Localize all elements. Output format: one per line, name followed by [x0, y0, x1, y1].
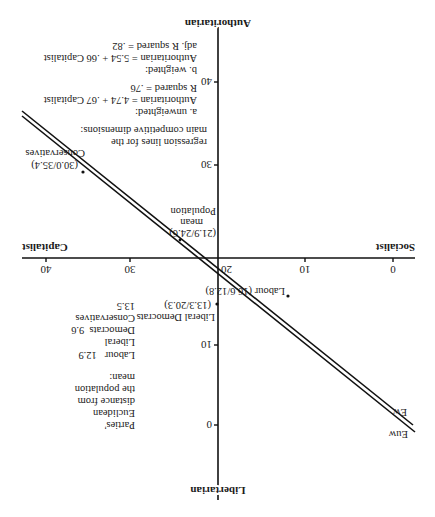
svg-text:Conservatives: Conservatives — [76, 313, 136, 324]
x-tick-10: 10 — [299, 264, 311, 276]
svg-text:Authoritarian = 5.54 + .66 Cap: Authoritarian = 5.54 + .66 Capitalist — [44, 53, 197, 64]
distance-note: Parties' Euclidean distance from the pop… — [71, 301, 135, 431]
svg-text:Democrats 9.6: Democrats 9.6 — [71, 325, 135, 336]
regression-note: regression lines for the main competitiv… — [44, 41, 207, 148]
svg-text:13.5: 13.5 — [117, 301, 135, 312]
point-label-libdem-2: (13.3/20.3) — [164, 299, 211, 311]
x-axis-right-label: Capitalist — [22, 242, 68, 254]
line-label-ew: Ew — [393, 407, 407, 418]
svg-text:b. weighted:: b. weighted: — [145, 65, 197, 76]
svg-text:main competitive dimensions:: main competitive dimensions: — [80, 125, 207, 136]
svg-text:Euclidean: Euclidean — [92, 408, 135, 419]
svg-text:Liberal: Liberal — [105, 337, 135, 348]
chart-figure: 0 10 20 30 40 0 10 30 40 Socialist Capit… — [0, 0, 435, 517]
svg-text:adj. R squared = .82: adj. R squared = .82 — [112, 41, 197, 52]
svg-text:Authoritarian = 4.74 + .67 Cap: Authoritarian = 4.74 + .67 Capitalist — [44, 95, 197, 106]
x-axis-left-label: Socialist — [376, 242, 415, 254]
line-label-euw: Euw — [388, 429, 408, 440]
point-label-pop-3: (21.9/24.6) — [169, 227, 216, 239]
y-tick-0: 0 — [206, 419, 212, 431]
svg-text:distance from: distance from — [78, 396, 135, 407]
y-axis-bottom-label: Libertarian — [191, 485, 246, 497]
x-tick-30: 30 — [124, 264, 136, 276]
svg-text:Labour 12.9: Labour 12.9 — [78, 350, 135, 361]
point-label-pop-2: mean — [180, 217, 203, 228]
y-tick-10: 10 — [201, 339, 213, 351]
x-tick-0: 0 — [390, 264, 396, 276]
point-label-con-2: (30.0/35.4) — [31, 159, 78, 171]
point-labour — [286, 294, 289, 297]
y-axis-top-label: Authoritarian — [185, 18, 251, 30]
svg-text:regression lines for the: regression lines for the — [111, 137, 207, 148]
y-tick-40: 40 — [201, 76, 213, 88]
point-label-pop-1: Population — [170, 206, 216, 217]
svg-text:the population: the population — [74, 384, 135, 395]
svg-text:mean:: mean: — [109, 372, 135, 383]
point-conservatives — [81, 170, 84, 173]
y-tick-30: 30 — [201, 159, 213, 171]
chart-svg: 0 10 20 30 40 0 10 30 40 Socialist Capit… — [0, 0, 435, 517]
svg-text:R squared = .76: R squared = .76 — [130, 83, 197, 94]
point-label-labour: Labour (16.6/12.8) — [205, 285, 285, 297]
point-label-con-1: Conservatives — [26, 148, 86, 159]
point-libdem — [215, 302, 218, 305]
x-tick-40: 40 — [40, 264, 52, 276]
svg-text:a. unweighted:: a. unweighted: — [135, 107, 197, 118]
point-label-libdem-1: Liberal Democrats — [137, 312, 215, 323]
svg-text:Parties': Parties' — [104, 420, 135, 431]
